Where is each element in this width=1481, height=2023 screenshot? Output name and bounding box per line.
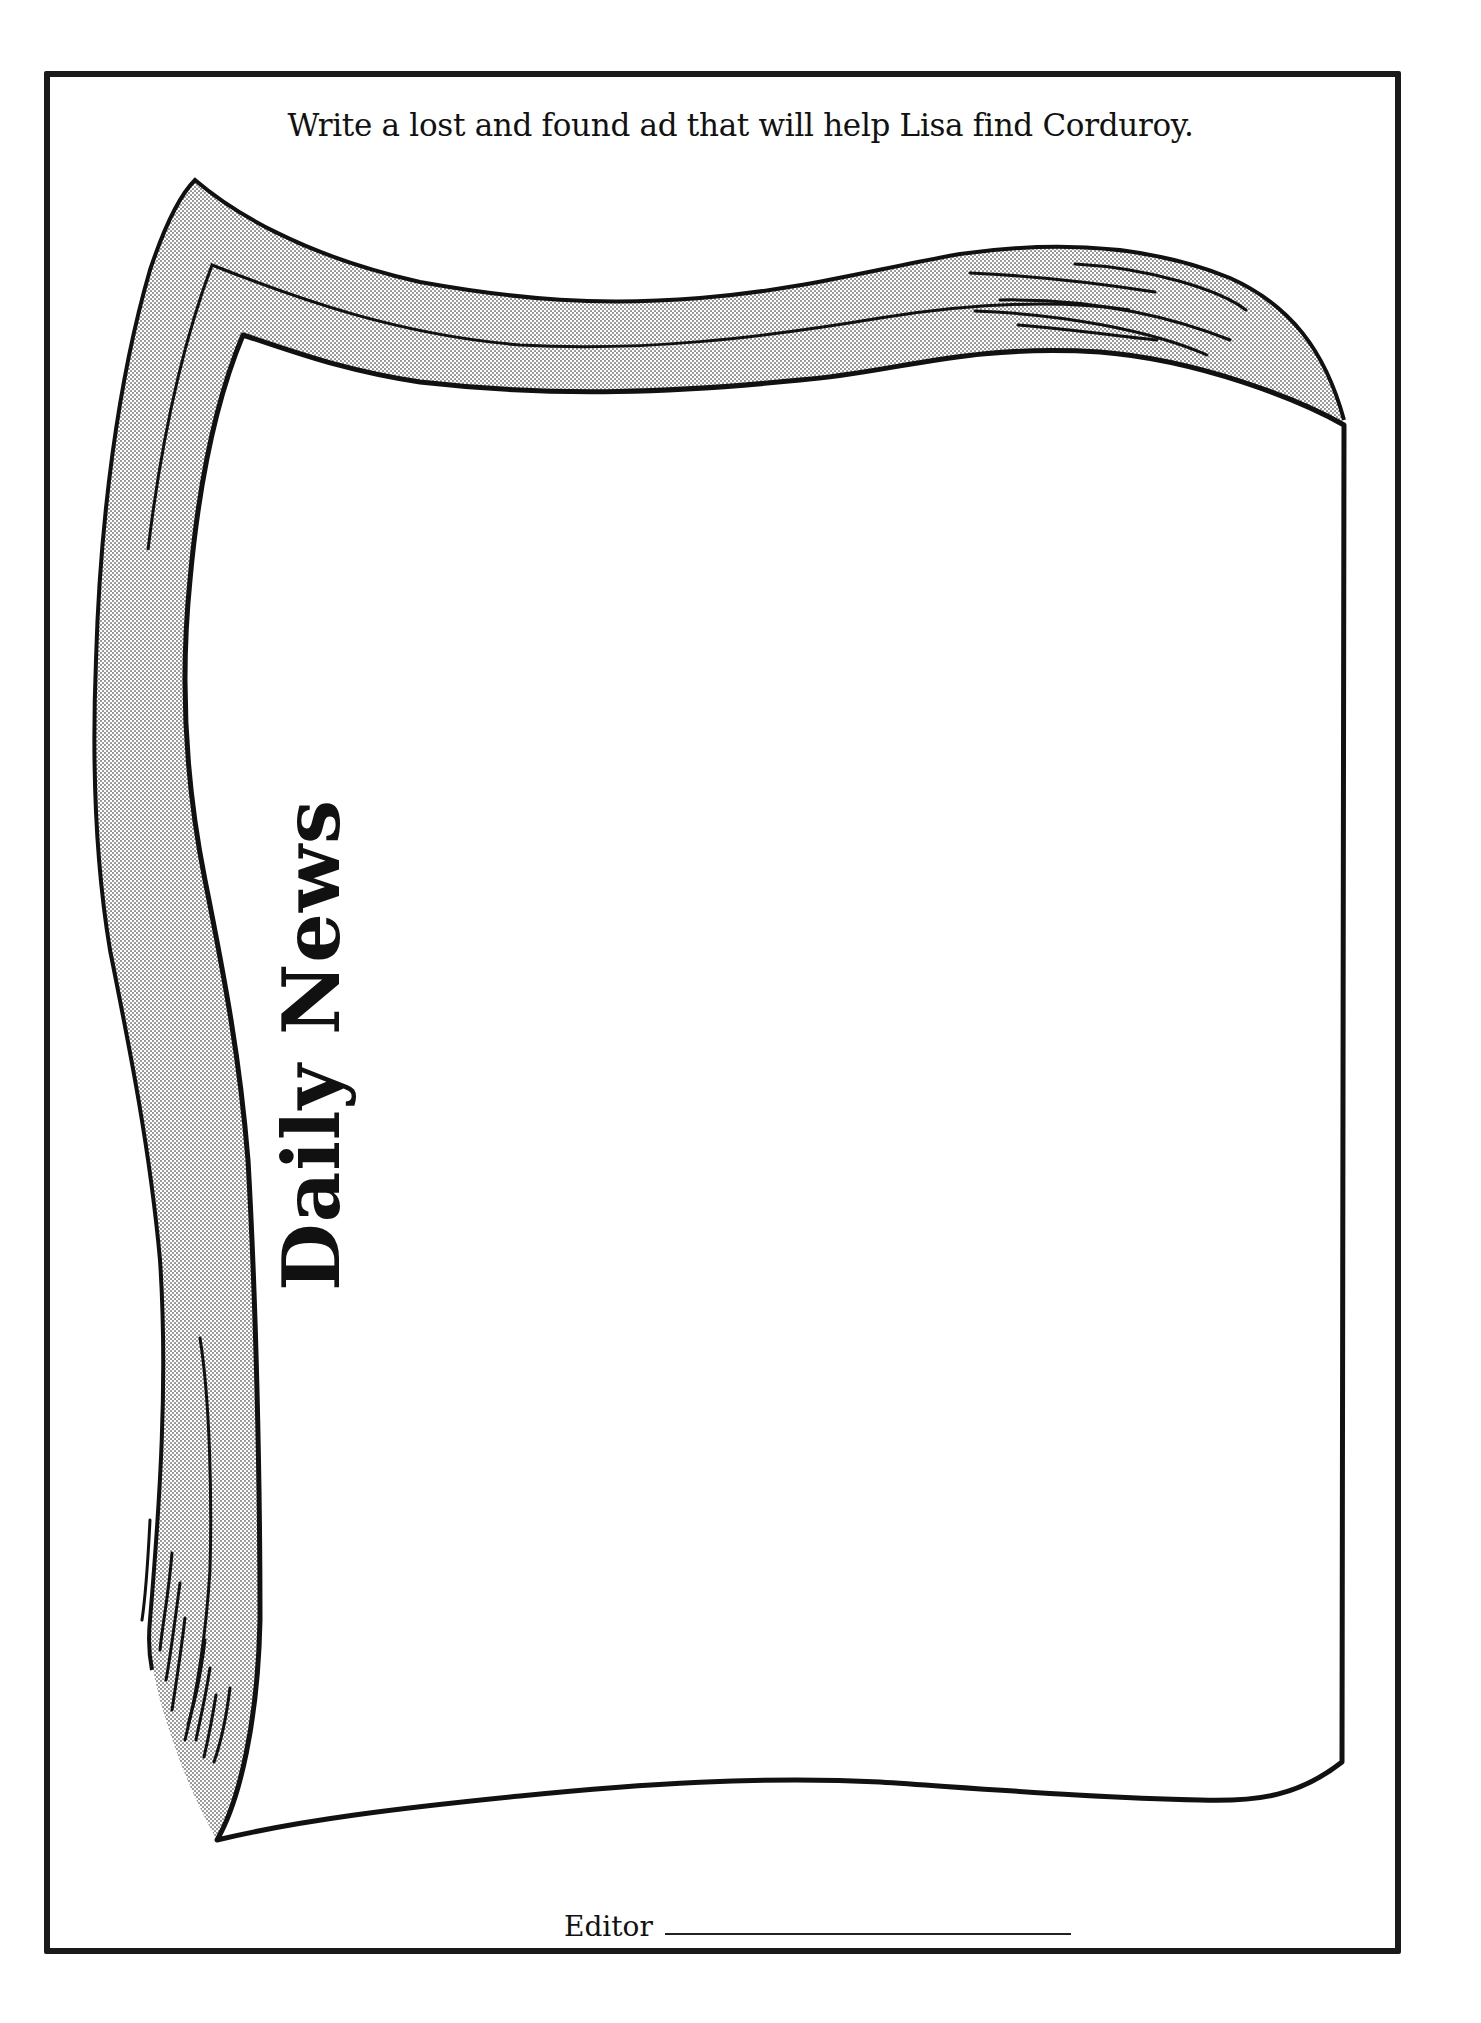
editor-label: Editor: [564, 1910, 653, 1943]
editor-name-field[interactable]: [665, 1933, 1071, 1935]
editor-signature: Editor: [564, 1903, 1071, 1943]
lost-and-found-ad-input[interactable]: [300, 420, 1324, 1764]
